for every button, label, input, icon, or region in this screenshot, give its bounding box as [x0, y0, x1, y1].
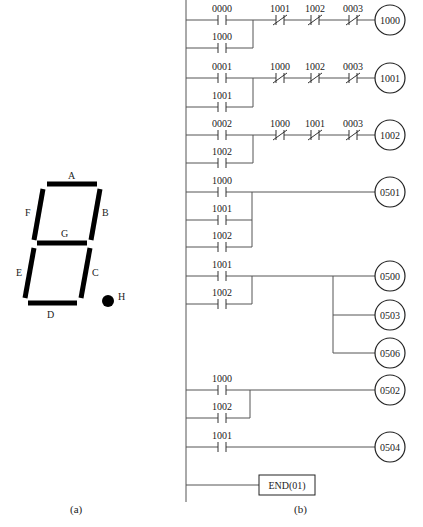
- rung-7: 1001 0504: [186, 430, 405, 462]
- contact-label: 1000: [270, 61, 290, 72]
- contact-no: [218, 158, 226, 168]
- contact-label: 1001: [212, 90, 232, 101]
- contact-label: 1001: [270, 3, 290, 14]
- contact-label: 1000: [212, 31, 232, 42]
- contact-label: 1002: [305, 3, 325, 14]
- rung-6: 1000 1002 0502: [186, 373, 405, 423]
- segment-f: [34, 189, 43, 240]
- contact-no: [218, 271, 226, 281]
- figure-canvas: A B C D E F G H (a) 0000 1000: [0, 0, 423, 527]
- coil-label: 1000: [380, 15, 400, 26]
- contact-label: 1000: [270, 118, 290, 129]
- contact-label: 1002: [212, 146, 232, 157]
- segment-c: [81, 248, 90, 298]
- contact-label: 1001: [212, 259, 232, 270]
- contact-no: [218, 130, 226, 140]
- contact-label: 1001: [212, 203, 232, 214]
- coil-label: 1001: [380, 73, 400, 84]
- segment-label-b: B: [102, 207, 109, 218]
- segment-label-d: D: [47, 309, 54, 320]
- contact-no: [218, 442, 226, 452]
- contact-no: [218, 187, 226, 197]
- rung-3: 0002 1002 1000 1001 0003 1002: [186, 118, 405, 168]
- segment-label-e: E: [16, 267, 22, 278]
- rung-5: 1001 1002 0500 0503 0506: [186, 259, 405, 368]
- contact-no: [218, 385, 226, 395]
- contact-label: 0003: [343, 61, 363, 72]
- contact-label: 0000: [212, 3, 232, 14]
- contact-no: [218, 102, 226, 112]
- coil-label: 0501: [380, 187, 400, 198]
- segment-h-dot: [102, 295, 114, 307]
- contact-no: [218, 215, 226, 225]
- contact-no: [218, 242, 226, 252]
- rung-1: 0000 1000 1001 1002 0003 1000: [186, 3, 405, 53]
- segment-label-f: F: [25, 207, 31, 218]
- contact-no: [218, 43, 226, 53]
- caption-a: (a): [70, 503, 83, 516]
- coil-label: 1002: [380, 130, 400, 141]
- segment-label-a: A: [68, 170, 76, 181]
- contact-no: [218, 73, 226, 83]
- contact-label: 1002: [212, 230, 232, 241]
- end-rung: END(01): [186, 475, 315, 495]
- contact-label: 1002: [212, 287, 232, 298]
- contact-no: [218, 413, 226, 423]
- contact-label: 0001: [212, 61, 232, 72]
- segment-label-g: G: [61, 228, 68, 239]
- coil-label: 0504: [380, 442, 400, 453]
- segment-label-h: H: [118, 291, 125, 302]
- ladder-diagram: 0000 1000 1001 1002 0003 1000 0001 1001: [186, 0, 405, 502]
- contact-no: [218, 299, 226, 309]
- contact-label: 1001: [212, 430, 232, 441]
- contact-label: 1001: [305, 118, 325, 129]
- coil-label: 0506: [380, 348, 400, 359]
- contact-label: 1002: [305, 61, 325, 72]
- contact-label: 1000: [212, 175, 232, 186]
- coil-label: 0502: [380, 385, 400, 396]
- caption-b: (b): [294, 503, 307, 516]
- coil-label: 0500: [380, 271, 400, 282]
- contact-label: 0002: [212, 118, 232, 129]
- contact-label: 1000: [212, 373, 232, 384]
- segment-label-c: C: [92, 267, 99, 278]
- contact-label: 0003: [343, 118, 363, 129]
- end-instruction-label: END(01): [268, 480, 305, 492]
- rung-2: 0001 1001 1000 1002 0003 1001: [186, 61, 405, 112]
- segment-e: [25, 248, 34, 298]
- segment-b: [91, 189, 100, 240]
- contact-label: 1002: [212, 401, 232, 412]
- coil-label: 0503: [380, 310, 400, 321]
- seven-segment-display: A B C D E F G H: [16, 170, 125, 320]
- contact-label: 0003: [343, 3, 363, 14]
- contact-no: [218, 15, 226, 25]
- rung-4: 1000 1001 1002 0501: [186, 175, 405, 252]
